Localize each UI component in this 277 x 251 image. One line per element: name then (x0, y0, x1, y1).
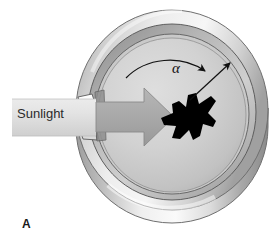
orientation-cage-figure (0, 0, 277, 251)
panel-label-a: A (22, 218, 31, 230)
angle-alpha-label: α (172, 61, 180, 76)
sunlight-label: Sunlight (17, 107, 64, 120)
